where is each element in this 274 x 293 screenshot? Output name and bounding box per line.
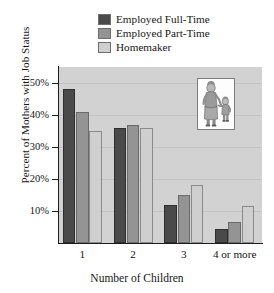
y-axis-tick-label: 10% xyxy=(30,206,49,216)
bar-employed-part-time-2 xyxy=(127,125,140,243)
legend-label-employed-full-time: Employed Full-Time xyxy=(116,14,210,25)
y-axis-tick-label: 50% xyxy=(30,78,49,88)
legend-label-employed-part-time: Employed Part-Time xyxy=(116,28,210,39)
legend-swatch-employed-part-time xyxy=(98,28,111,39)
y-axis-tick xyxy=(52,211,59,212)
bar-employed-part-time-3 xyxy=(178,195,191,243)
bar-employed-full-time-4-or-more xyxy=(215,229,228,243)
y-axis-tick xyxy=(52,83,59,84)
y-axis-tick-label: 30% xyxy=(30,142,49,152)
legend-item-employed-full-time: Employed Full-Time xyxy=(98,13,210,26)
bar-homemaker-3 xyxy=(191,185,204,243)
bar-homemaker-4-or-more xyxy=(242,206,255,243)
bar-employed-full-time-2 xyxy=(114,128,127,243)
legend-swatch-employed-full-time xyxy=(98,14,111,25)
y-axis-tick xyxy=(52,147,59,148)
bar-homemaker-2 xyxy=(140,128,153,243)
x-axis-line xyxy=(58,243,263,244)
legend-item-employed-part-time: Employed Part-Time xyxy=(98,27,210,40)
y-axis-tick-label: 20% xyxy=(30,174,49,184)
x-axis-tick-label: 4 or more xyxy=(195,248,274,260)
legend-label-homemaker: Homemaker xyxy=(116,42,171,53)
bar-employed-full-time-1 xyxy=(63,89,76,243)
y-axis-tick-label: 40% xyxy=(30,110,49,120)
mother-and-child-icon xyxy=(198,79,234,129)
y-axis-title: Percent of Mothers with Job Status xyxy=(19,10,31,200)
x-axis-title: Number of Children xyxy=(0,272,274,284)
legend-swatch-homemaker xyxy=(98,42,111,53)
chart-legend: Employed Full-Time Employed Part-Time Ho… xyxy=(98,13,210,54)
bar-employed-part-time-4-or-more xyxy=(228,222,241,243)
bar-employed-full-time-3 xyxy=(164,205,177,243)
bar-employed-part-time-1 xyxy=(76,112,89,243)
legend-item-homemaker: Homemaker xyxy=(98,41,210,54)
y-axis-tick xyxy=(52,179,59,180)
bar-homemaker-1 xyxy=(89,131,102,243)
bar-chart: Employed Full-Time Employed Part-Time Ho… xyxy=(0,0,274,293)
y-axis-tick xyxy=(52,115,59,116)
mother-and-child-illustration xyxy=(197,78,235,130)
